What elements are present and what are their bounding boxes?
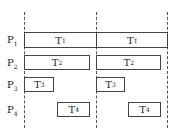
task-t3: T3 <box>96 77 125 92</box>
period-divider-1 <box>24 12 25 128</box>
task-t4-prime: T4′ <box>57 102 90 117</box>
processor-label-p2: P2 <box>7 57 18 73</box>
task-t4: T4 <box>128 102 161 117</box>
task-t2-prime: T2′ <box>96 55 161 70</box>
processor-label-p1: P1 <box>7 34 18 50</box>
period-divider-2 <box>96 12 97 128</box>
period-divider-3 <box>167 12 168 128</box>
processor-label-p4: P4 <box>7 104 18 120</box>
task-t1: T1 <box>24 32 97 48</box>
task-t1-prime: T1′ <box>96 32 168 48</box>
task-t2: T2 <box>24 55 90 70</box>
task-t3-prime: T3′ <box>24 77 54 92</box>
processor-label-p3: P3 <box>7 79 18 95</box>
